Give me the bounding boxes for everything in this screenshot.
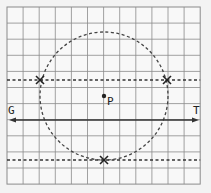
- diagram-canvas: [0, 0, 211, 193]
- diagram: P G T: [0, 0, 211, 193]
- point-p-label: P: [107, 96, 114, 107]
- label-t: T: [193, 105, 200, 116]
- label-g: G: [8, 105, 15, 116]
- point-p-dot: [102, 94, 106, 98]
